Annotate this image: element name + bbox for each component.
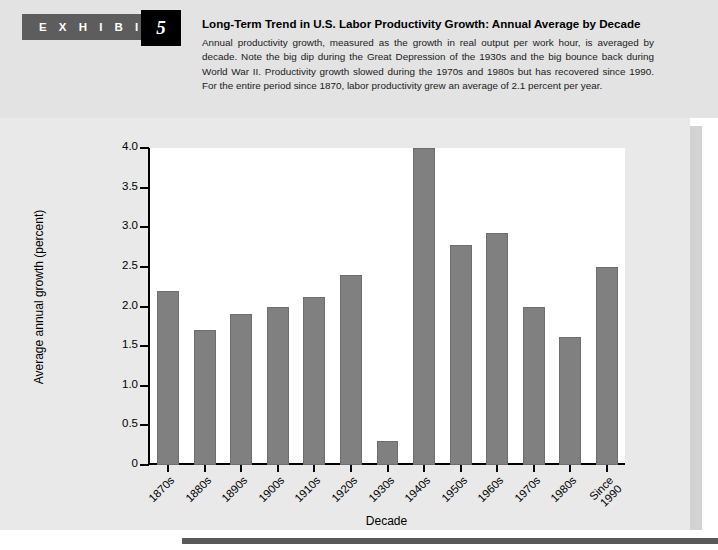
bar-series — [150, 148, 625, 465]
bar — [157, 291, 179, 465]
y-axis-title: Average annual growth (percent) — [32, 182, 46, 412]
y-axis-tick — [140, 385, 149, 387]
x-axis-tick — [387, 465, 389, 472]
exhibit-number: 5 — [156, 17, 166, 39]
x-axis-tick — [240, 465, 242, 472]
x-axis-tick — [569, 465, 571, 472]
x-axis-tick — [204, 465, 206, 472]
exhibit-title: Long-Term Trend in U.S. Labor Productivi… — [202, 16, 654, 31]
y-axis-tick-label: 2.0 — [76, 299, 138, 311]
x-axis-tick — [460, 465, 462, 472]
x-axis-tick — [496, 465, 498, 472]
x-axis-tick — [277, 465, 279, 472]
bar — [340, 275, 362, 465]
y-axis-tick-label: 3.5 — [76, 180, 138, 192]
y-axis-tick — [140, 147, 149, 149]
bar — [230, 314, 252, 465]
exhibit-header-text: Long-Term Trend in U.S. Labor Productivi… — [202, 16, 654, 94]
bar — [267, 307, 289, 466]
x-axis-tick — [606, 465, 608, 472]
y-axis-tick-labels: 00.51.01.52.02.53.03.54.0 — [68, 0, 138, 550]
bar — [596, 267, 618, 465]
chart-panel-shadow — [690, 126, 702, 530]
y-axis-tick-label: 1.5 — [76, 338, 138, 350]
footer-rule — [182, 538, 718, 544]
bar — [450, 245, 472, 465]
y-axis-tick — [140, 226, 149, 228]
bar — [194, 330, 216, 465]
bar — [377, 441, 399, 465]
bar — [413, 148, 435, 465]
exhibit-number-box: 5 — [141, 10, 181, 46]
y-axis-tick — [140, 345, 149, 347]
x-axis-title: Decade — [148, 514, 625, 528]
y-axis-tick — [140, 266, 149, 268]
bar — [303, 297, 325, 465]
y-axis-tick — [140, 464, 149, 466]
x-axis-tick — [313, 465, 315, 472]
exhibit-description: Annual productivity growth, measured as … — [202, 36, 654, 94]
y-axis-tick — [140, 424, 149, 426]
x-axis-tick — [350, 465, 352, 472]
y-axis-tick — [140, 187, 149, 189]
x-axis-tick — [423, 465, 425, 472]
x-axis-tick — [167, 465, 169, 472]
y-axis-tick-label: 3.0 — [76, 219, 138, 231]
y-axis-tick-label: 1.0 — [76, 378, 138, 390]
y-axis-tick-label: 0 — [76, 457, 138, 469]
x-axis-tick — [533, 465, 535, 472]
y-axis-tick-label: 2.5 — [76, 259, 138, 271]
y-axis-tick — [140, 306, 149, 308]
bar — [523, 307, 545, 466]
y-axis-tick-label: 4.0 — [76, 140, 138, 152]
bar — [559, 337, 581, 465]
y-axis-tick-label: 0.5 — [76, 417, 138, 429]
bar — [486, 233, 508, 465]
